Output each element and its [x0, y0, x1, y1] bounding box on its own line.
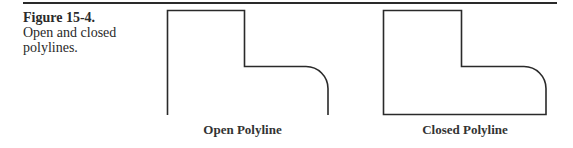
closed-polyline-label: Closed Polyline	[385, 122, 545, 138]
open-polyline-shape	[168, 11, 329, 116]
open-polyline-label: Open Polyline	[165, 122, 320, 138]
closed-polyline-shape	[384, 11, 547, 115]
